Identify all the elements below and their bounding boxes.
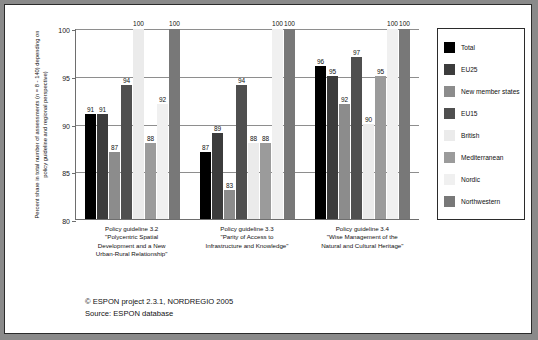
x-axis-group-labels: Policy guideline 3.2"Polycentric Spatial… bbox=[75, 225, 419, 259]
legend-swatch-icon bbox=[444, 174, 455, 185]
legend-swatch-icon bbox=[444, 130, 455, 141]
x-axis-group-label: Policy guideline 3.3"Parity of Access to… bbox=[192, 225, 301, 259]
x-axis-group-label-line: Natural and Cultural Heritage" bbox=[308, 242, 417, 250]
legend-item[interactable]: Nordic bbox=[444, 168, 524, 190]
gridline: 80 bbox=[76, 220, 419, 221]
bar[interactable] bbox=[121, 85, 132, 219]
bar[interactable] bbox=[169, 29, 180, 219]
caption-source: Source: ESPON database bbox=[85, 308, 233, 320]
bar-slot: 100 bbox=[272, 29, 283, 219]
bar-value-label: 95 bbox=[329, 68, 336, 75]
y-axis-title: Percent share in total number of assessm… bbox=[19, 29, 63, 220]
legend-item-label: EU25 bbox=[461, 66, 478, 73]
legend-swatch-icon bbox=[444, 42, 455, 53]
bar-value-label: 94 bbox=[238, 77, 245, 84]
bar[interactable] bbox=[327, 76, 338, 219]
bar-slot: 91 bbox=[97, 29, 108, 219]
legend-item-label: New member states bbox=[461, 88, 520, 95]
caption-copyright: © ESPON project 2.3.1, NORDREGIO 2005 bbox=[85, 296, 233, 308]
bar-value-label: 88 bbox=[262, 135, 269, 142]
bar-slot: 90 bbox=[363, 29, 374, 219]
plot-area: 80859095100 9191879410088921008789839488… bbox=[75, 29, 419, 220]
bar-slot: 100 bbox=[399, 29, 410, 219]
bar-value-label: 92 bbox=[159, 96, 166, 103]
bar-value-label: 94 bbox=[123, 77, 130, 84]
x-axis-group-label-line: Development and a New bbox=[77, 242, 186, 250]
bar-slot: 97 bbox=[351, 29, 362, 219]
bar[interactable] bbox=[399, 29, 410, 219]
legend-item-label: British bbox=[461, 132, 479, 139]
bar[interactable] bbox=[315, 66, 326, 219]
bar-slot: 88 bbox=[260, 29, 271, 219]
legend-swatch-icon bbox=[444, 86, 455, 97]
bar[interactable] bbox=[97, 114, 108, 219]
legend-item-label: EU15 bbox=[461, 110, 478, 117]
bar[interactable] bbox=[248, 143, 259, 219]
bar[interactable] bbox=[387, 29, 398, 219]
bar-value-label: 95 bbox=[377, 68, 384, 75]
legend-swatch-icon bbox=[444, 108, 455, 119]
bar-value-label: 91 bbox=[99, 106, 106, 113]
bar-slot: 96 bbox=[315, 29, 326, 219]
bar-value-label: 97 bbox=[353, 49, 360, 56]
bar[interactable] bbox=[351, 57, 362, 219]
bar-slot: 100 bbox=[284, 29, 295, 219]
bar-slot: 89 bbox=[212, 29, 223, 219]
bar-value-label: 100 bbox=[133, 20, 144, 27]
bar[interactable] bbox=[272, 29, 283, 219]
bar[interactable] bbox=[339, 104, 350, 219]
bar[interactable] bbox=[200, 152, 211, 219]
legend-item-label: Mediterranean bbox=[461, 154, 504, 161]
legend-swatch-icon bbox=[444, 64, 455, 75]
bar-slot: 92 bbox=[157, 29, 168, 219]
bar[interactable] bbox=[284, 29, 295, 219]
bar-value-label: 100 bbox=[399, 20, 410, 27]
bar-slot: 83 bbox=[224, 29, 235, 219]
legend-item[interactable]: EU15 bbox=[444, 102, 524, 124]
legend-item-label: Total bbox=[461, 44, 475, 51]
bar-slot: 88 bbox=[145, 29, 156, 219]
bar-slot: 95 bbox=[375, 29, 386, 219]
bar[interactable] bbox=[375, 76, 386, 219]
x-axis-group-label-line: "Polycentric Spatial bbox=[77, 233, 186, 241]
x-axis-group-label-line: Urban-Rural Relationship" bbox=[77, 250, 186, 258]
legend-item[interactable]: New member states bbox=[444, 80, 524, 102]
bar-value-label: 100 bbox=[272, 20, 283, 27]
bar[interactable] bbox=[133, 29, 144, 219]
legend-item[interactable]: Total bbox=[444, 36, 524, 58]
bar[interactable] bbox=[260, 143, 271, 219]
bar[interactable] bbox=[157, 104, 168, 219]
figure-panel: Percent share in total number of assessm… bbox=[4, 4, 532, 334]
legend-swatch-icon bbox=[444, 152, 455, 163]
legend-item[interactable]: Northwestern bbox=[444, 190, 524, 212]
bar-slot: 100 bbox=[387, 29, 398, 219]
bar[interactable] bbox=[145, 143, 156, 219]
legend-item[interactable]: EU25 bbox=[444, 58, 524, 80]
bar[interactable] bbox=[85, 114, 96, 219]
bar-value-label: 92 bbox=[341, 96, 348, 103]
bar-value-label: 89 bbox=[214, 125, 221, 132]
bar-value-label: 87 bbox=[202, 144, 209, 151]
y-axis-tick-label: 80 bbox=[62, 218, 70, 225]
bar-groups: 9191879410088921008789839488881001009695… bbox=[76, 29, 419, 219]
bar-value-label: 87 bbox=[111, 144, 118, 151]
bar-slot: 94 bbox=[121, 29, 132, 219]
y-axis-tick-label: 95 bbox=[62, 74, 70, 81]
legend-item[interactable]: Mediterranean bbox=[444, 146, 524, 168]
bar[interactable] bbox=[109, 152, 120, 219]
x-axis-group-label: Policy guideline 3.2"Polycentric Spatial… bbox=[77, 225, 186, 259]
bar[interactable] bbox=[212, 133, 223, 219]
bar-group: 878983948888100100 bbox=[193, 29, 302, 219]
bar[interactable] bbox=[363, 124, 374, 220]
x-axis-group-label: Policy guideline 3.4"Wise Management of … bbox=[308, 225, 417, 259]
y-axis-tick-label: 85 bbox=[62, 170, 70, 177]
y-axis-tick bbox=[72, 221, 76, 222]
x-axis-group-label-line: Policy guideline 3.3 bbox=[192, 225, 301, 233]
y-axis-tick-label: 100 bbox=[58, 27, 70, 34]
bar[interactable] bbox=[224, 190, 235, 219]
legend: TotalEU25New member statesEU15BritishMed… bbox=[437, 28, 525, 220]
bar-value-label: 100 bbox=[284, 20, 295, 27]
bar-slot: 94 bbox=[236, 29, 247, 219]
legend-item[interactable]: British bbox=[444, 124, 524, 146]
bar[interactable] bbox=[236, 85, 247, 219]
